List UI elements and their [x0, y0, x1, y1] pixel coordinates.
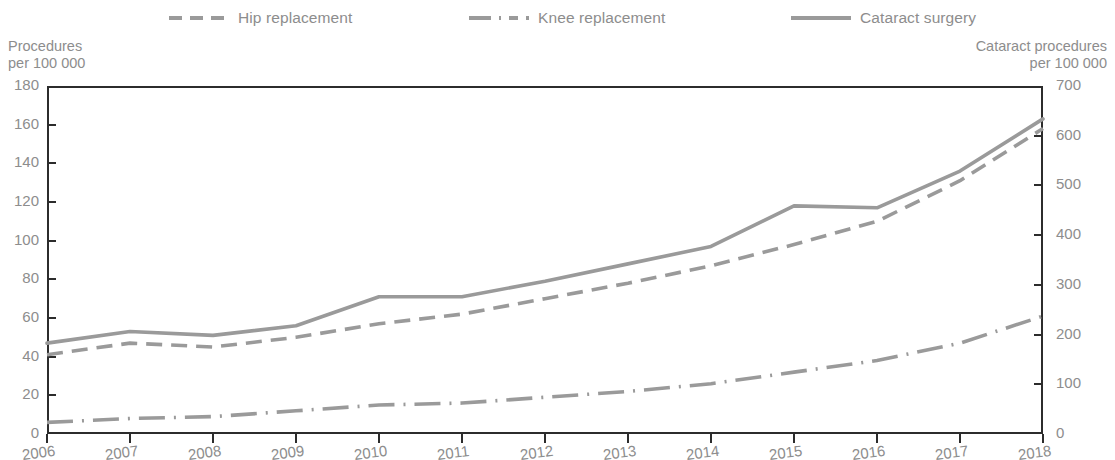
left-axis-title-line2: per 100 000: [8, 55, 85, 72]
right-axis-title: Cataract procedures per 100 000: [976, 38, 1107, 72]
y-tickmark-right: [1034, 184, 1043, 186]
y-tickmark-left: [47, 317, 56, 319]
y-tick-label-right: 300: [1056, 275, 1115, 292]
y-tickmark-left: [47, 394, 56, 396]
y-tick-label-right: 100: [1056, 374, 1115, 391]
chart-figure: Hip replacement Knee replacement Catarac…: [0, 0, 1115, 460]
y-tick-label-right: 500: [1056, 175, 1115, 192]
y-tickmark-right: [1034, 383, 1043, 385]
chart-legend: Hip replacement Knee replacement Catarac…: [0, 8, 1115, 34]
y-tick-label-left: 160: [0, 115, 39, 132]
x-tick-label: 2015: [768, 442, 803, 460]
legend-swatch-solid-icon: [790, 11, 852, 25]
legend-label-knee-replacement: Knee replacement: [538, 9, 665, 27]
x-tick-label: 2013: [602, 442, 637, 460]
legend-item-knee-replacement: Knee replacement: [468, 8, 665, 28]
right-axis-title-line1: Cataract procedures: [976, 38, 1107, 55]
y-tick-label-left: 120: [0, 192, 39, 209]
y-tick-label-left: 0: [0, 424, 39, 441]
y-tickmark-left: [47, 278, 56, 280]
left-axis-title-line1: Procedures: [8, 38, 85, 55]
x-tick-label: 2011: [436, 442, 470, 460]
x-tick-label: 2006: [21, 442, 56, 460]
legend-swatch-dash-dot-icon: [468, 11, 530, 25]
y-tickmark-left: [47, 162, 56, 164]
legend-item-cataract-surgery: Cataract surgery: [790, 8, 976, 28]
y-tick-label-left: 20: [0, 385, 39, 402]
y-tick-label-left: 40: [0, 347, 39, 364]
right-axis-title-line2: per 100 000: [976, 55, 1107, 72]
y-tick-label-left: 80: [0, 269, 39, 286]
y-tick-label-left: 100: [0, 231, 39, 248]
x-tick-label: 2018: [1017, 442, 1052, 460]
y-tick-label-right: 700: [1056, 76, 1115, 93]
legend-swatch-dashed-icon: [168, 11, 230, 25]
y-tickmark-right: [1034, 334, 1043, 336]
x-tick-label: 2007: [104, 442, 139, 460]
x-tick-label: 2010: [353, 442, 388, 460]
x-tick-label: 2017: [934, 442, 969, 460]
y-tick-label-right: 0: [1056, 424, 1115, 441]
y-tick-label-left: 60: [0, 308, 39, 325]
y-tick-label-left: 180: [0, 76, 39, 93]
left-axis-title: Procedures per 100 000: [8, 38, 85, 72]
y-tickmark-right: [1034, 234, 1043, 236]
legend-label-hip-replacement: Hip replacement: [238, 9, 352, 27]
x-tick-label: 2012: [519, 442, 554, 460]
y-tickmark-left: [47, 240, 56, 242]
y-tick-label-right: 200: [1056, 325, 1115, 342]
x-tick-label: 2009: [270, 442, 305, 460]
x-tick-label: 2014: [685, 442, 720, 460]
y-tickmark-left: [47, 201, 56, 203]
y-tick-label-right: 600: [1056, 126, 1115, 143]
y-tickmark-right: [1034, 135, 1043, 137]
legend-label-cataract-surgery: Cataract surgery: [860, 9, 976, 27]
x-tick-label: 2008: [187, 442, 222, 460]
legend-item-hip-replacement: Hip replacement: [168, 8, 352, 28]
y-tick-label-left: 140: [0, 153, 39, 170]
y-tickmark-left: [47, 124, 56, 126]
y-tick-label-right: 400: [1056, 225, 1115, 242]
y-tickmark-right: [1034, 284, 1043, 286]
x-tick-label: 2016: [851, 442, 886, 460]
plot-area: [47, 86, 1043, 434]
y-tickmark-left: [47, 356, 56, 358]
